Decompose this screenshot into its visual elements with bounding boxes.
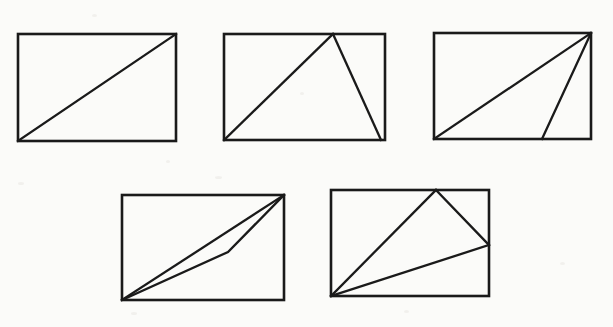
figure-2-rectangle <box>224 34 385 140</box>
figure-5 <box>331 190 489 296</box>
figure-2 <box>224 34 385 140</box>
figure-2-right-leg <box>333 34 381 140</box>
figure-1-diagonal <box>18 34 176 141</box>
figure-2-left-leg <box>224 34 333 140</box>
figure-5-rectangle <box>331 190 489 296</box>
geometry-diagram-canvas <box>0 0 613 327</box>
figure-4 <box>122 195 284 300</box>
figure-5-right-leg <box>436 190 489 245</box>
figure-sheet <box>0 0 613 327</box>
figure-4-diagonal <box>122 195 284 300</box>
figure-3 <box>434 33 591 139</box>
figure-1 <box>18 34 176 141</box>
